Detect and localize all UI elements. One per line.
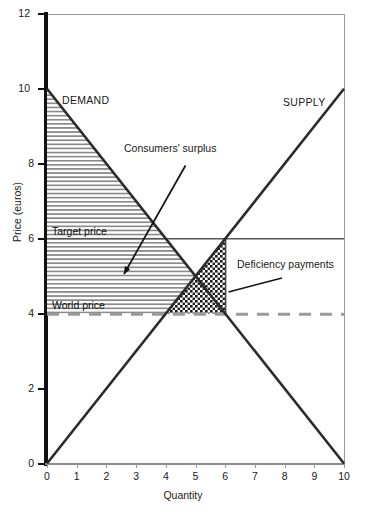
chart-root: 0 2 4 6 8 10 12 0 1 2 3 4 5 6 7 8 9 10 Q… bbox=[0, 0, 366, 516]
target-price-label: Target price bbox=[52, 225, 107, 237]
world-price-label: World price bbox=[52, 299, 105, 311]
deficiency-payments-leader bbox=[229, 278, 283, 292]
deficiency-payments-label: Deficiency payments bbox=[237, 258, 334, 270]
supply-label: SUPPLY bbox=[283, 96, 325, 108]
consumers-surplus-label: Consumers' surplus bbox=[124, 142, 216, 154]
demand-label: DEMAND bbox=[62, 94, 109, 106]
